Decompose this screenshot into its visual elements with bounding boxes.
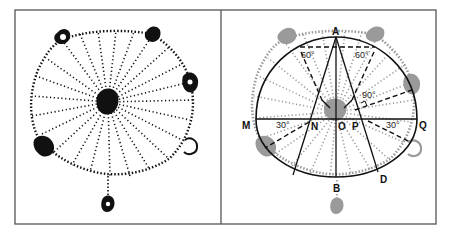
angle-bottom-right: 30° — [386, 120, 400, 130]
label-n: N — [311, 121, 318, 132]
label-m: M — [242, 120, 250, 131]
angle-top-left: 60° — [301, 50, 315, 60]
left-panel-pattern — [31, 27, 198, 212]
angle-bottom-left: 30° — [276, 120, 290, 130]
label-d: D — [380, 174, 387, 185]
angle-right-mid: 90° — [362, 90, 376, 100]
label-p: P — [352, 121, 359, 132]
diagram-figure: A M N O P Q B D 60° 60° 90° 30° 30° — [0, 0, 452, 234]
angle-top-right: 60° — [355, 50, 369, 60]
label-q: Q — [419, 120, 427, 131]
label-a: A — [332, 26, 339, 37]
label-b: B — [333, 183, 340, 194]
diagram-svg: A M N O P Q B D 60° 60° 90° 30° 30° — [0, 0, 452, 234]
label-o: O — [338, 121, 346, 132]
